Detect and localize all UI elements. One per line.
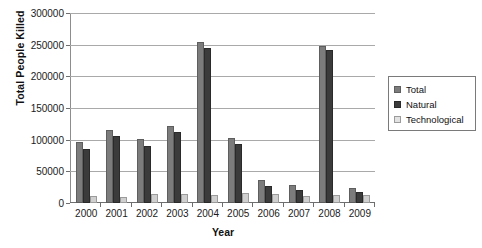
bar-total-2007[interactable] [289, 185, 296, 203]
bar-group-2008 [314, 13, 344, 203]
x-label-2004: 2004 [193, 208, 223, 219]
x-label-2007: 2007 [284, 208, 314, 219]
bar-group-2005 [223, 13, 253, 203]
bars [345, 13, 375, 203]
x-label-2003: 2003 [162, 208, 192, 219]
y-tick-mark [66, 45, 70, 46]
x-label-2006: 2006 [253, 208, 283, 219]
legend-swatch-total-icon [394, 86, 401, 93]
bar-group-2004 [193, 13, 223, 203]
x-tick-mark [313, 203, 314, 207]
bar-technological-2006[interactable] [272, 194, 279, 203]
bars [162, 13, 192, 203]
bar-total-2008[interactable] [319, 46, 326, 203]
bar-technological-2005[interactable] [242, 193, 249, 203]
bar-technological-2004[interactable] [211, 195, 218, 203]
y-tick-mark [66, 76, 70, 77]
y-tick-mark [66, 13, 70, 14]
bar-natural-2008[interactable] [326, 50, 333, 203]
bar-technological-2003[interactable] [181, 194, 188, 203]
legend-swatch-technological-icon [394, 116, 401, 123]
bar-natural-2001[interactable] [113, 136, 120, 203]
y-tick-mark [66, 203, 70, 204]
bar-natural-2004[interactable] [204, 48, 211, 203]
x-label-2009: 2009 [345, 208, 375, 219]
chart-legend: Total Natural Technological [388, 76, 476, 131]
x-tick-mark [283, 203, 284, 207]
bar-total-2004[interactable] [197, 42, 204, 203]
y-tick-mark [66, 171, 70, 172]
y-tick-label: 200000 [31, 71, 64, 82]
y-tick-label: 250000 [31, 39, 64, 50]
bar-group-2006 [253, 13, 283, 203]
bar-total-2003[interactable] [167, 126, 174, 203]
bar-groups [71, 13, 375, 203]
bars [314, 13, 344, 203]
x-label-2001: 2001 [101, 208, 131, 219]
bar-group-2007 [284, 13, 314, 203]
bar-group-2009 [345, 13, 375, 203]
x-axis-title: Year [71, 226, 375, 238]
bar-natural-2007[interactable] [296, 190, 303, 203]
x-tick-mark [161, 203, 162, 207]
y-tick-label: 0 [58, 198, 64, 209]
y-tick-label: 100000 [31, 134, 64, 145]
legend-item-total[interactable]: Total [394, 84, 471, 95]
bar-natural-2005[interactable] [235, 144, 242, 203]
bars [253, 13, 283, 203]
bar-natural-2006[interactable] [265, 186, 272, 203]
plot-area: 050000100000150000200000250000300000 [70, 13, 375, 203]
legend-label-natural: Natural [406, 99, 437, 110]
bar-natural-2009[interactable] [356, 192, 363, 203]
bar-total-2006[interactable] [258, 180, 265, 203]
x-tick-mark [222, 203, 223, 207]
bar-natural-2002[interactable] [144, 146, 151, 203]
bar-natural-2003[interactable] [174, 132, 181, 203]
x-tick-mark [131, 203, 132, 207]
bars [193, 13, 223, 203]
bars [101, 13, 131, 203]
x-tick-mark [252, 203, 253, 207]
bar-group-2000 [71, 13, 101, 203]
bar-total-2005[interactable] [228, 138, 235, 203]
y-tick-mark [66, 108, 70, 109]
x-tick-mark [100, 203, 101, 207]
bar-group-2002 [132, 13, 162, 203]
bar-group-2003 [162, 13, 192, 203]
x-axis-labels: 2000200120022003200420052006200720082009 [71, 208, 375, 219]
legend-label-technological: Technological [406, 114, 464, 125]
x-label-2000: 2000 [71, 208, 101, 219]
y-tick-mark [66, 140, 70, 141]
y-tick-label: 50000 [36, 166, 64, 177]
bar-technological-2008[interactable] [333, 195, 340, 203]
x-tick-mark [344, 203, 345, 207]
bar-technological-2009[interactable] [363, 195, 370, 203]
bar-total-2002[interactable] [137, 139, 144, 203]
y-tick-label: 300000 [31, 8, 64, 19]
bar-technological-2001[interactable] [120, 197, 127, 203]
legend-item-natural[interactable]: Natural [394, 99, 471, 110]
bars [132, 13, 162, 203]
legend-label-total: Total [406, 84, 426, 95]
bar-technological-2002[interactable] [151, 194, 158, 203]
bars [223, 13, 253, 203]
bar-total-2001[interactable] [106, 130, 113, 203]
bar-chart: Total People Killed 05000010000015000020… [0, 0, 482, 248]
bars [71, 13, 101, 203]
x-label-2002: 2002 [132, 208, 162, 219]
bar-technological-2007[interactable] [303, 196, 310, 203]
y-axis-title: Total People Killed [14, 0, 26, 123]
bar-technological-2000[interactable] [90, 196, 97, 203]
x-label-2005: 2005 [223, 208, 253, 219]
bars [284, 13, 314, 203]
legend-swatch-natural-icon [394, 101, 401, 108]
y-tick-label: 150000 [31, 103, 64, 114]
bar-total-2000[interactable] [76, 142, 83, 203]
legend-item-technological[interactable]: Technological [394, 114, 471, 125]
bar-natural-2000[interactable] [83, 149, 90, 203]
bar-total-2009[interactable] [349, 188, 356, 203]
x-tick-mark [374, 203, 375, 207]
bar-group-2001 [101, 13, 131, 203]
x-tick-mark [192, 203, 193, 207]
x-label-2008: 2008 [314, 208, 344, 219]
